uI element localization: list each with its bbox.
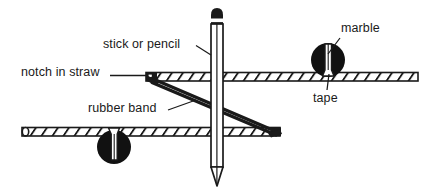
leader-line-stick-or-pencil: [196, 46, 211, 56]
leader-line-rubber-band: [168, 100, 196, 110]
label-marble: marble: [341, 22, 380, 35]
upper-straw: [146, 73, 418, 82]
lower-straw: [22, 128, 281, 137]
label-tape: tape: [313, 92, 338, 105]
label-stick-or-pencil: stick or pencil: [103, 38, 180, 51]
diagram-canvas: notch in straw stick or pencil rubber ba…: [0, 0, 428, 193]
pencil: [211, 8, 223, 186]
label-notch-in-straw: notch in straw: [21, 66, 100, 79]
label-rubber-band: rubber band: [88, 102, 157, 115]
